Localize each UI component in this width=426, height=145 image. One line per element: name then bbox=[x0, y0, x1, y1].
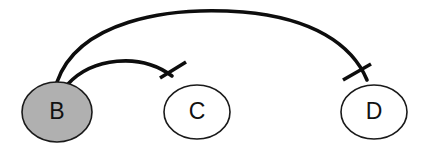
graph-diagram: B C D bbox=[0, 0, 426, 145]
node-c-label: C bbox=[189, 98, 206, 124]
edge-b-c[interactable] bbox=[68, 61, 186, 84]
edge-b-d[interactable] bbox=[57, 11, 371, 82]
node-c[interactable]: C bbox=[164, 85, 230, 139]
node-d-label: D bbox=[366, 98, 383, 124]
edge-b-c-path bbox=[68, 61, 172, 84]
edge-b-d-path bbox=[57, 11, 367, 82]
node-d[interactable]: D bbox=[341, 85, 407, 139]
figure-canvas: B C D bbox=[0, 0, 426, 145]
node-b[interactable]: B bbox=[22, 82, 92, 142]
node-b-label: B bbox=[49, 98, 64, 124]
